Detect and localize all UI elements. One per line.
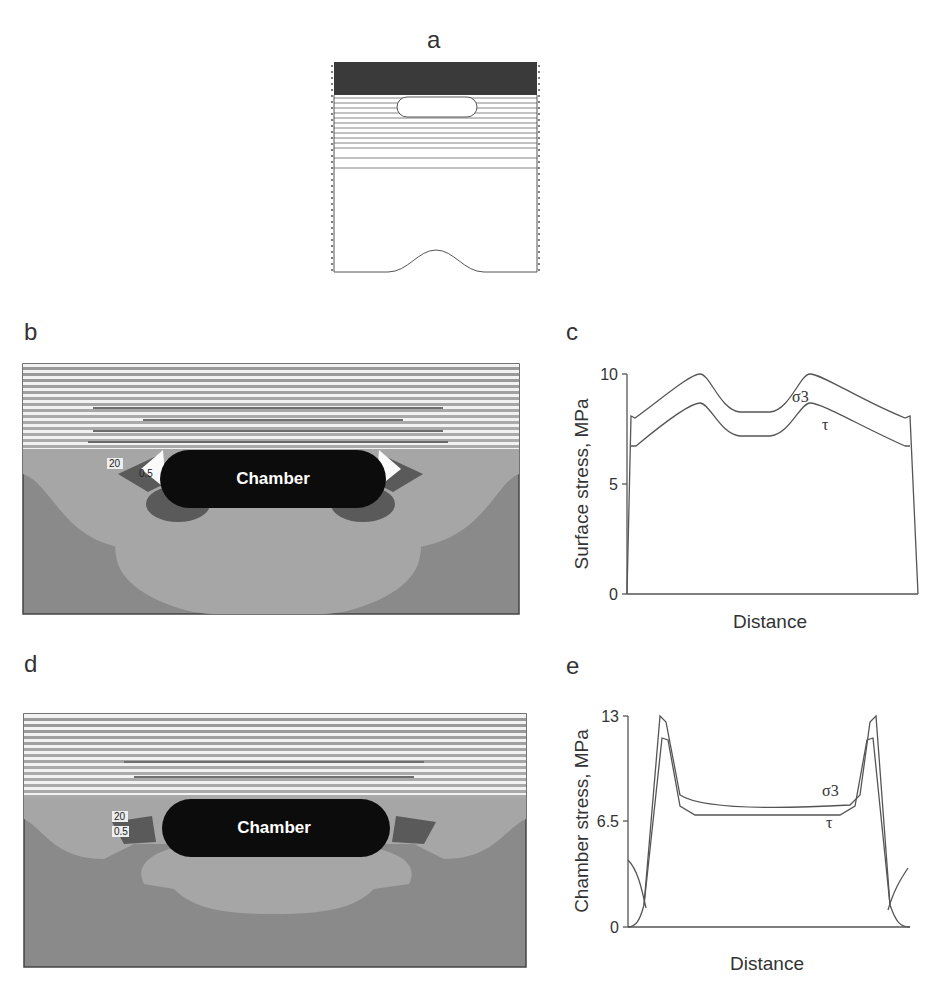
sigma3-label-c: σ3 — [792, 388, 809, 405]
chamber-outline — [397, 97, 477, 117]
ytick-13: 13 — [601, 708, 619, 725]
surface-stress-chart: 10 5 0 σ3 τ Distance Surface stress, MPa — [560, 360, 929, 640]
chamber-stress-chart: 13 6.5 0 σ3 τ Distance Chamber stress, M… — [560, 700, 929, 990]
chamber-label-b: Chamber — [236, 469, 310, 488]
stress-contour-d: Chamber 20 0.5 — [24, 714, 526, 967]
ytick-6.5: 6.5 — [597, 813, 619, 830]
ytick-0: 0 — [609, 586, 618, 603]
model-schematic — [328, 62, 543, 276]
xlabel-e: Distance — [730, 953, 804, 974]
contour-tag-20-d: 20 — [114, 811, 126, 822]
tau-label-e: τ — [826, 814, 833, 831]
stress-contour-b: Chamber 20 0.5 — [23, 364, 519, 614]
contour-tag-0.5-d: 0.5 — [114, 826, 128, 837]
panel-label-e: e — [566, 652, 579, 680]
panel-label-d: d — [24, 650, 37, 678]
panel-label-a: a — [427, 26, 440, 54]
ylabel-c: Surface stress, MPa — [571, 398, 592, 569]
ylabel-e: Chamber stress, MPa — [571, 729, 592, 913]
tau-label-c: τ — [822, 416, 829, 433]
sigma3-label-e: σ3 — [822, 782, 839, 799]
contour-tag-20-b: 20 — [109, 458, 121, 469]
xlabel-c: Distance — [733, 611, 807, 632]
panel-label-b: b — [24, 318, 37, 346]
ytick-0: 0 — [610, 919, 619, 936]
chamber-label-d: Chamber — [237, 818, 311, 837]
panel-label-c: c — [566, 318, 578, 346]
ytick-5: 5 — [609, 476, 618, 493]
ytick-10: 10 — [600, 366, 618, 383]
contour-tag-0.5-b: 0.5 — [139, 468, 153, 479]
